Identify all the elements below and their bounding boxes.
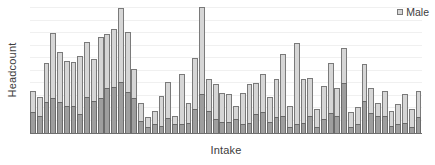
bar-segment-male [260, 74, 266, 112]
bar-segment-female [355, 124, 361, 133]
bar-segment-female [253, 114, 259, 133]
bar-segment-female [294, 124, 300, 133]
bar-segment-female [341, 83, 347, 133]
bar-stack [145, 117, 151, 133]
bar-segment-male [321, 86, 327, 120]
bar-stack [30, 91, 36, 134]
bar-stack [37, 97, 43, 133]
bar-chart: Headcount Intake Male [0, 0, 435, 165]
bar-segment-male [409, 109, 415, 127]
bar-segment-female [118, 82, 124, 133]
bar-stack [301, 79, 307, 133]
bar-segment-male [98, 37, 104, 98]
bar-stack [260, 74, 266, 133]
bar-segment-female [226, 122, 232, 133]
bar-segment-male [152, 111, 158, 125]
bar-segment-male [233, 106, 239, 120]
bar-stack [186, 103, 192, 133]
bar-stack [199, 7, 205, 133]
bar-segment-male [165, 82, 171, 118]
legend-item-label: Male [406, 6, 429, 18]
bar-segment-female [186, 123, 192, 133]
bar-segment-male [57, 52, 63, 102]
bar-segment-male [267, 97, 273, 122]
bar-stack [77, 56, 83, 134]
bar-stack [362, 64, 368, 133]
bar-stack [50, 33, 56, 133]
bar-segment-male [314, 109, 320, 127]
bar-stack [409, 109, 415, 133]
bar-segment-female [138, 121, 144, 134]
bar-segment-male [159, 96, 165, 126]
bar-segment-male [213, 84, 219, 119]
bar-stack [416, 91, 422, 134]
bar-stack [267, 97, 273, 133]
bar-stack [172, 116, 178, 134]
bar-stack [104, 34, 110, 133]
bar-segment-female [334, 116, 340, 134]
bar-stack [125, 32, 131, 133]
bar-segment-male [355, 107, 361, 125]
bar-stack [91, 59, 97, 133]
bar-stack [307, 78, 313, 133]
bar-stack [395, 104, 401, 133]
bar-stack [98, 37, 104, 133]
bar-series-container [30, 8, 422, 133]
x-axis-title: Intake [30, 144, 422, 156]
bar-stack [138, 103, 144, 133]
bar-segment-male [206, 79, 212, 110]
bar-segment-male [64, 61, 70, 106]
bar-stack [368, 88, 374, 133]
bar-stack [84, 42, 90, 133]
bar-stack [226, 94, 232, 133]
bar-segment-male [382, 91, 388, 116]
bar-stack [314, 109, 320, 133]
bar-segment-female [219, 122, 225, 133]
bar-segment-female [307, 116, 313, 134]
bar-segment-male [416, 91, 422, 117]
bar-segment-male [77, 56, 83, 115]
bar-segment-female [152, 124, 158, 133]
bar-stack [328, 63, 334, 133]
bar-segment-male [253, 83, 259, 114]
bar-segment-female [64, 106, 70, 134]
bar-segment-female [416, 117, 422, 133]
bar-stack [152, 111, 158, 134]
bar-segment-male [334, 88, 340, 116]
bar-stack [382, 91, 388, 134]
x-axis-title-label: Intake [210, 144, 241, 156]
bar-segment-male [30, 91, 36, 112]
bar-stack [334, 88, 340, 133]
bar-segment-male [131, 69, 137, 98]
bar-segment-male [389, 111, 395, 126]
bar-segment-female [321, 119, 327, 133]
bar-stack [274, 79, 280, 133]
bar-stack [240, 93, 246, 133]
bar-stack [131, 69, 137, 133]
bar-segment-female [267, 122, 273, 133]
bar-segment-female [389, 126, 395, 134]
bar-segment-male [71, 62, 77, 106]
bar-segment-male [301, 79, 307, 123]
bar-stack [375, 103, 381, 133]
bar-segment-male [280, 54, 286, 115]
bar-segment-male [328, 63, 334, 113]
bar-stack [253, 83, 259, 133]
bar-segment-female [104, 88, 110, 133]
bar-segment-male [274, 79, 280, 117]
bar-segment-female [71, 106, 77, 134]
legend-swatch-icon [397, 9, 403, 15]
bar-segment-female [301, 123, 307, 133]
bar-segment-male [341, 48, 347, 83]
bar-segment-male [287, 106, 293, 127]
bar-stack [44, 63, 50, 133]
bar-segment-female [199, 94, 205, 133]
bar-segment-female [240, 124, 246, 133]
plot-area [30, 8, 422, 133]
bar-segment-male [240, 93, 246, 124]
y-axis-title: Headcount [0, 0, 22, 140]
bar-segment-female [328, 113, 334, 133]
bar-stack [348, 112, 354, 133]
bar-segment-female [159, 126, 165, 134]
bar-segment-female [77, 114, 83, 133]
